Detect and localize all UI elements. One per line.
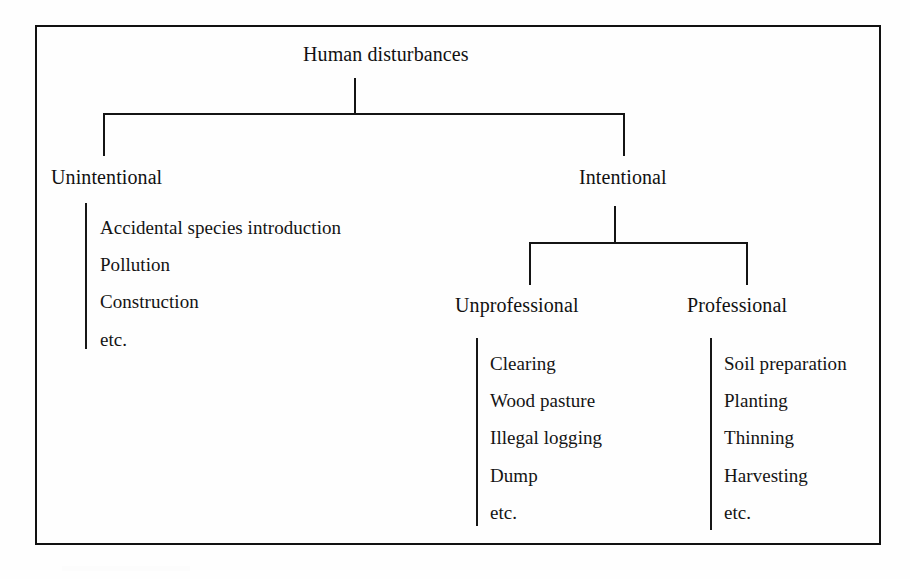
leaf-item: Dump bbox=[490, 457, 602, 494]
leaf-item: Wood pasture bbox=[490, 382, 602, 419]
bracket-unprofessional-leaves bbox=[476, 338, 478, 526]
connector-drop-intentional bbox=[623, 113, 625, 156]
connector-drop-unprofessional bbox=[529, 242, 531, 285]
connector-root-stem bbox=[354, 78, 356, 114]
scan-artifact bbox=[62, 566, 190, 571]
connector-level3-bar bbox=[529, 242, 748, 244]
leaf-item: Pollution bbox=[100, 246, 341, 283]
leaf-list-unintentional: Accidental species introduction Pollutio… bbox=[100, 209, 341, 358]
leaf-list-professional: Soil preparation Planting Thinning Harve… bbox=[724, 345, 847, 531]
leaf-item: Soil preparation bbox=[724, 345, 847, 382]
leaf-item: Thinning bbox=[724, 419, 847, 456]
leaf-item: Clearing bbox=[490, 345, 602, 382]
leaf-item: etc. bbox=[490, 494, 602, 531]
figure-canvas: Human disturbances Unintentional Intenti… bbox=[0, 0, 910, 579]
node-intentional: Intentional bbox=[579, 167, 667, 187]
leaf-list-unprofessional: Clearing Wood pasture Illegal logging Du… bbox=[490, 345, 602, 531]
connector-level2-bar bbox=[103, 113, 625, 115]
leaf-item: Construction bbox=[100, 283, 341, 320]
connector-drop-professional bbox=[746, 242, 748, 285]
leaf-item: Illegal logging bbox=[490, 419, 602, 456]
connector-drop-unintentional bbox=[103, 113, 105, 156]
leaf-item: Planting bbox=[724, 382, 847, 419]
leaf-item: etc. bbox=[100, 321, 341, 358]
node-root: Human disturbances bbox=[303, 44, 469, 64]
bracket-professional-leaves bbox=[710, 338, 712, 530]
leaf-item: etc. bbox=[724, 494, 847, 531]
connector-intentional-stem bbox=[614, 206, 616, 243]
leaf-item: Harvesting bbox=[724, 457, 847, 494]
node-professional: Professional bbox=[687, 295, 787, 315]
bracket-unintentional-leaves bbox=[85, 203, 87, 349]
leaf-item: Accidental species introduction bbox=[100, 209, 341, 246]
node-unprofessional: Unprofessional bbox=[455, 295, 579, 315]
node-unintentional: Unintentional bbox=[51, 167, 162, 187]
